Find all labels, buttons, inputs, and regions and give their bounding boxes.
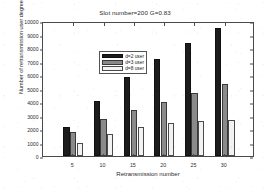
y-tick-label: 1000 bbox=[27, 141, 38, 147]
legend-label: d=2 user bbox=[125, 54, 144, 59]
chart-legend: d=2 user d=3 user d=8 user bbox=[99, 51, 147, 74]
x-tick-mark bbox=[104, 23, 105, 26]
bar-group bbox=[185, 23, 205, 156]
y-tick-label: 0 bbox=[36, 154, 39, 160]
y-tick-mark bbox=[250, 50, 253, 51]
y-tick-mark bbox=[40, 104, 43, 105]
bar bbox=[131, 110, 137, 156]
x-tick-mark bbox=[133, 154, 134, 157]
x-tick-label: 15 bbox=[130, 162, 136, 168]
bar bbox=[107, 134, 113, 156]
y-tick-label: 9000 bbox=[27, 33, 38, 39]
legend-swatch-icon bbox=[102, 66, 123, 70]
bar bbox=[154, 59, 160, 156]
y-tick-mark bbox=[250, 77, 253, 78]
y-tick-label: 8000 bbox=[27, 46, 38, 52]
legend-label: d=3 user bbox=[125, 60, 144, 65]
legend-item: d=3 user bbox=[102, 60, 144, 65]
y-tick-label: 3000 bbox=[27, 114, 38, 120]
y-tick-mark bbox=[40, 90, 43, 91]
y-tick-label: 10000 bbox=[24, 19, 38, 25]
y-tick-mark bbox=[40, 63, 43, 64]
x-tick-mark bbox=[103, 154, 104, 157]
bar bbox=[161, 102, 167, 156]
y-tick-label: 7000 bbox=[27, 60, 38, 66]
bar bbox=[168, 123, 174, 156]
legend-label: d=8 user bbox=[125, 66, 144, 71]
x-tick-mark bbox=[134, 23, 135, 26]
x-tick-mark bbox=[164, 23, 165, 26]
y-tick-mark bbox=[250, 131, 253, 132]
x-tick-label: 30 bbox=[221, 162, 227, 168]
y-tick-mark bbox=[250, 144, 253, 145]
x-tick-mark bbox=[163, 154, 164, 157]
bar-group bbox=[215, 23, 235, 156]
y-tick-mark bbox=[250, 36, 253, 37]
y-tick-mark bbox=[250, 63, 253, 64]
bar bbox=[70, 132, 76, 156]
y-tick-mark bbox=[40, 36, 43, 37]
legend-item: d=2 user bbox=[102, 54, 144, 59]
y-tick-mark bbox=[250, 104, 253, 105]
legend-swatch-icon bbox=[102, 60, 123, 64]
y-tick-mark bbox=[250, 90, 253, 91]
bar bbox=[215, 28, 221, 156]
bar bbox=[228, 120, 234, 156]
x-tick-mark bbox=[193, 154, 194, 157]
y-tick-mark bbox=[250, 23, 253, 24]
bar bbox=[191, 93, 197, 156]
x-tick-mark bbox=[224, 154, 225, 157]
bar bbox=[138, 127, 144, 156]
bar bbox=[100, 119, 106, 156]
bar bbox=[222, 84, 228, 156]
x-tick-mark bbox=[73, 23, 74, 26]
bar-group bbox=[63, 23, 83, 156]
x-tick-label: 5 bbox=[71, 162, 74, 168]
bar bbox=[198, 121, 204, 156]
x-tick-label: 20 bbox=[160, 162, 166, 168]
bar-group bbox=[94, 23, 114, 156]
y-tick-mark bbox=[40, 144, 43, 145]
y-tick-mark bbox=[40, 131, 43, 132]
x-tick-label: 10 bbox=[100, 162, 106, 168]
y-tick-mark bbox=[40, 23, 43, 24]
bar bbox=[94, 101, 100, 156]
bar bbox=[63, 127, 69, 156]
y-tick-mark bbox=[250, 117, 253, 118]
y-tick-label: 2000 bbox=[27, 127, 38, 133]
legend-swatch-icon bbox=[102, 54, 123, 58]
x-tick-mark bbox=[72, 154, 73, 157]
x-tick-mark bbox=[194, 23, 195, 26]
x-tick-mark bbox=[225, 23, 226, 26]
y-tick-label: 5000 bbox=[27, 87, 38, 93]
bar bbox=[124, 77, 130, 156]
bar-group bbox=[124, 23, 144, 156]
bar-group bbox=[154, 23, 174, 156]
bars-layer bbox=[43, 23, 253, 156]
y-tick-mark bbox=[40, 117, 43, 118]
plot-area: d=2 user d=3 user d=8 user bbox=[42, 22, 254, 157]
legend-item: d=8 user bbox=[102, 66, 144, 71]
figure: Slot number=200 G=0.83 Number of retrans… bbox=[0, 0, 270, 189]
bar bbox=[77, 143, 83, 156]
x-tick-label: 25 bbox=[190, 162, 196, 168]
y-tick-label: 6000 bbox=[27, 73, 38, 79]
bar bbox=[185, 43, 191, 156]
y-axis-ticks: 0100020003000400050006000700080009000100… bbox=[0, 22, 42, 157]
y-tick-mark bbox=[40, 50, 43, 51]
chart-title: Slot number=200 G=0.83 bbox=[60, 9, 210, 16]
y-tick-mark bbox=[40, 77, 43, 78]
x-axis-label: Retransmission number bbox=[42, 171, 254, 177]
y-tick-label: 4000 bbox=[27, 100, 38, 106]
